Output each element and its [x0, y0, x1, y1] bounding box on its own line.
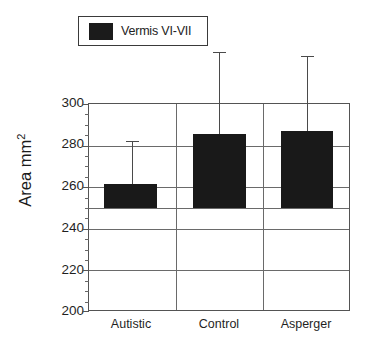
- gridline-240: [89, 229, 349, 230]
- y-tick-minor-235: [85, 239, 89, 240]
- gridline-250-baseline: [89, 208, 349, 209]
- y-tick-label-300: 300: [44, 96, 84, 110]
- y-tick-major-260: [82, 187, 89, 188]
- bar-chart-figure: Vermis VI-VII Area mm2 300 280 260 240 2…: [0, 0, 369, 347]
- x-category-label-control: Control: [174, 317, 264, 332]
- gridline-220: [89, 270, 349, 271]
- y-tick-minor-295: [85, 114, 89, 115]
- y-tick-major-240: [82, 229, 89, 230]
- y-tick-minor-245: [85, 218, 89, 219]
- bar-autistic: [104, 184, 157, 208]
- plot-area: [88, 103, 350, 311]
- y-tick-minor-255: [85, 198, 89, 199]
- error-bar-cap-control: [213, 52, 226, 53]
- y-tick-minor-225: [85, 260, 89, 261]
- x-category-label-autistic: Autistic: [86, 317, 176, 332]
- y-tick-minor-285: [85, 135, 89, 136]
- y-tick-minor-230: [85, 250, 89, 251]
- y-tick-minor-205: [85, 302, 89, 303]
- error-bar-cap-autistic: [126, 141, 139, 142]
- y-tick-label-260: 260: [44, 179, 84, 193]
- y-tick-major-280: [82, 146, 89, 147]
- y-tick-major-200: [82, 311, 89, 312]
- y-tick-minor-250: [85, 208, 89, 209]
- y-tick-minor-215: [85, 281, 89, 282]
- y-tick-minor-290: [85, 125, 89, 126]
- y-tick-minor-265: [85, 177, 89, 178]
- gridline-category-divider-2: [263, 104, 264, 310]
- y-tick-label-200: 200: [44, 304, 84, 318]
- y-tick-minor-275: [85, 156, 89, 157]
- y-tick-label-280: 280: [44, 137, 84, 151]
- gridline-category-divider-1: [176, 104, 177, 310]
- bar-asperger: [281, 131, 333, 208]
- y-tick-label-240: 240: [44, 221, 84, 235]
- bar-control: [193, 134, 246, 208]
- y-tick-major-300: [82, 104, 89, 105]
- y-tick-minor-210: [85, 291, 89, 292]
- y-tick-minor-270: [85, 166, 89, 167]
- y-tick-label-220: 220: [44, 263, 84, 277]
- x-category-label-asperger: Asperger: [261, 317, 351, 332]
- y-tick-major-220: [82, 270, 89, 271]
- error-bar-cap-asperger: [301, 56, 314, 57]
